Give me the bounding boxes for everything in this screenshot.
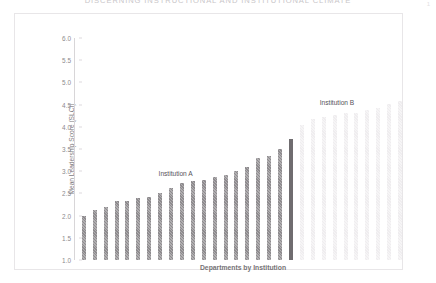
bar: [311, 119, 315, 260]
bar: [344, 113, 348, 260]
chart-annotation: Institution A: [159, 170, 193, 177]
y-tick-label: 2.5: [25, 190, 71, 197]
y-tick-label: 3.0: [25, 168, 71, 175]
bar: [213, 177, 217, 260]
bar: [289, 139, 293, 260]
page-number: 1: [427, 1, 430, 7]
bar: [365, 110, 369, 260]
y-tick-label: 1.5: [25, 234, 71, 241]
bar: [136, 198, 140, 260]
bar: [376, 108, 380, 260]
y-tick-label: 5.5: [25, 57, 71, 64]
y-tick-label: 6.0: [25, 35, 71, 42]
bar: [354, 113, 358, 260]
bar: [180, 183, 184, 260]
bar: [387, 104, 391, 260]
bar: [169, 188, 173, 260]
bar: [300, 125, 304, 260]
bar: [234, 171, 238, 260]
y-tick-label: 1.0: [25, 257, 71, 264]
bar: [158, 193, 162, 260]
bar: [115, 201, 119, 260]
y-tick-label: 5.0: [25, 79, 71, 86]
bar: [202, 180, 206, 260]
plot-area: Institution AInstitution B: [74, 38, 412, 260]
x-axis-label: Departments by Institution: [74, 264, 412, 271]
bar: [278, 149, 282, 260]
bar: [256, 158, 260, 260]
y-tick-label: 2.0: [25, 212, 71, 219]
bar: [245, 167, 249, 260]
bar: [398, 101, 402, 260]
y-tick-label: 4.5: [25, 101, 71, 108]
y-tick-label: 3.5: [25, 146, 71, 153]
bar: [267, 156, 271, 260]
y-tick-label: 4.0: [25, 123, 71, 130]
bar: [93, 210, 97, 260]
y-axis-ticks: 1.01.52.02.53.03.54.04.55.05.56.0: [21, 38, 71, 260]
document-title: DISCERNING INSTRUCTIONAL AND INSTITUTION…: [0, 0, 436, 5]
figure-frame: Mean Leadership Score (SLCI) 1.01.52.02.…: [14, 13, 403, 270]
bar: [104, 207, 108, 260]
bar: [125, 201, 129, 260]
bar: [147, 197, 151, 260]
bar: [224, 175, 228, 260]
bar: [333, 115, 337, 260]
bar: [322, 117, 326, 260]
chart-annotation: Institution B: [320, 99, 354, 106]
bar: [191, 181, 195, 260]
bar: [82, 216, 86, 260]
